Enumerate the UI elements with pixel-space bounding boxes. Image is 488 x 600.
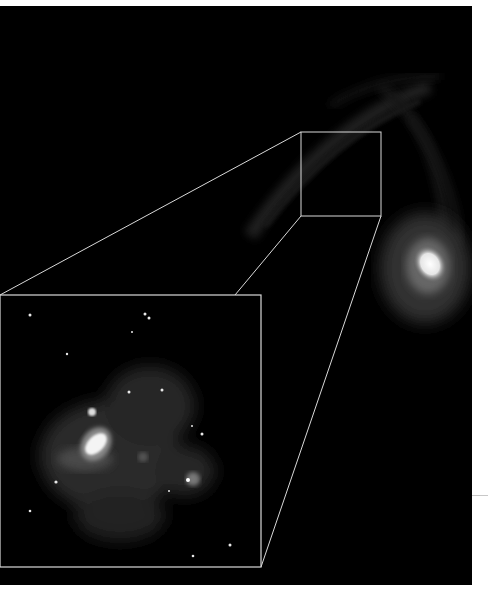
- inset-view: [0, 295, 261, 567]
- margin-rule: [472, 495, 488, 496]
- connector-line-mid: [235, 216, 301, 295]
- bright-core: [380, 213, 470, 323]
- connector-line-bottom: [261, 216, 381, 567]
- astronomy-image: [0, 6, 472, 585]
- image-canvas: [0, 6, 472, 585]
